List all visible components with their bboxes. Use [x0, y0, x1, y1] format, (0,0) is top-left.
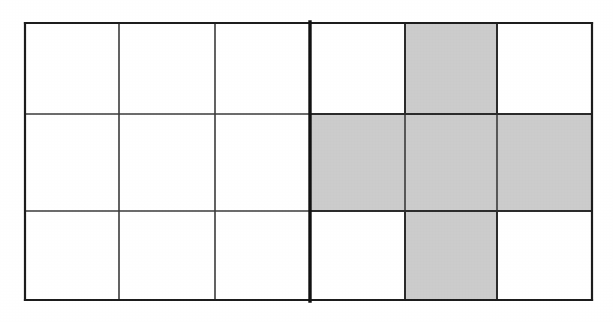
cell-r1c2[interactable]	[215, 114, 310, 211]
cell-r0c3[interactable]	[310, 23, 405, 114]
grid-diagram-canvas	[0, 0, 613, 322]
cell-r1c5[interactable]	[497, 114, 592, 211]
cell-r1c0[interactable]	[25, 114, 119, 211]
cell-r2c3[interactable]	[310, 211, 405, 300]
grid-diagram-figure	[0, 0, 613, 322]
cell-r0c2[interactable]	[215, 23, 310, 114]
cell-r2c4[interactable]	[405, 211, 497, 300]
cell-r1c1[interactable]	[119, 114, 215, 211]
cell-r2c1[interactable]	[119, 211, 215, 300]
cell-r0c0[interactable]	[25, 23, 119, 114]
cell-r0c5[interactable]	[497, 23, 592, 114]
cell-r0c1[interactable]	[119, 23, 215, 114]
cell-r1c3[interactable]	[310, 114, 405, 211]
cell-r0c4[interactable]	[405, 23, 497, 114]
cell-r2c0[interactable]	[25, 211, 119, 300]
cell-r2c5[interactable]	[497, 211, 592, 300]
cell-r1c4[interactable]	[405, 114, 497, 211]
cell-r2c2[interactable]	[215, 211, 310, 300]
